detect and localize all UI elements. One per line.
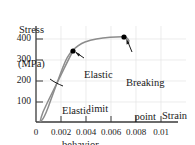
breaking-point-label-line2: point xyxy=(126,111,165,122)
breaking-point-marker xyxy=(121,34,126,39)
stress-strain-chart: Stress (MPa) Strain 400 300 200 100 0 0.… xyxy=(0,0,195,145)
elastic-limit-arrowhead xyxy=(75,52,80,57)
x-tick-label-0: 0 xyxy=(28,128,44,138)
elastic-behavior-label-line1: Elastic xyxy=(62,105,99,116)
y-tick-label-100: 100 xyxy=(9,96,31,106)
y-tick-label-400: 400 xyxy=(9,33,31,43)
y-tick-label-200: 200 xyxy=(9,75,31,85)
elastic-limit-marker xyxy=(70,48,75,53)
elastic-behavior-label: Elastic behavior xyxy=(62,82,99,145)
breaking-point-label: Breaking point xyxy=(126,54,165,145)
x-axis-title: Strain xyxy=(162,110,187,121)
elastic-limit-label-line1: Elastic xyxy=(84,69,113,80)
y-tick-label-300: 300 xyxy=(9,54,31,64)
elastic-behavior-label-line2: behavior xyxy=(62,139,99,145)
breaking-point-label-line1: Breaking xyxy=(126,77,165,88)
